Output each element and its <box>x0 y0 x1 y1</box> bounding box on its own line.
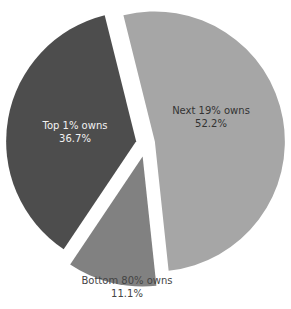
slice-label-next-19: Next 19% owns <box>172 105 250 116</box>
slice-label-top-1: Top 1% owns <box>42 120 108 131</box>
slice-value-top-1: 36.7% <box>59 133 91 144</box>
pie-chart: Next 19% owns 52.2% Top 1% owns 36.7% Bo… <box>0 0 291 309</box>
slice-value-bottom-80: 11.1% <box>111 288 143 299</box>
slice-label-bottom-80: Bottom 80% owns <box>81 275 172 286</box>
slice-value-next-19: 52.2% <box>195 118 227 129</box>
